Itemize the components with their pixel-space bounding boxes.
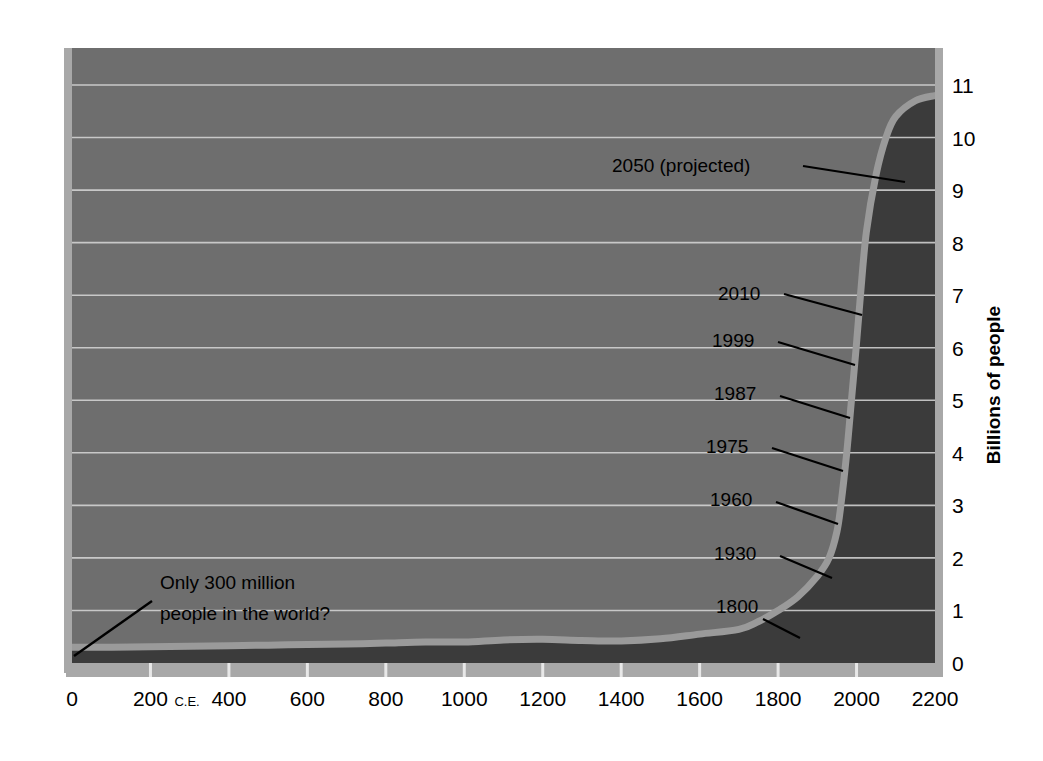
y-tick-label-8: 8	[952, 232, 964, 255]
y-tick-label-7: 7	[952, 284, 964, 307]
x-tick-label-200: 200	[133, 687, 168, 710]
chart-canvas: 01234567891011 0200C.E.40060080010001200…	[0, 0, 1043, 761]
y-axis-left-spine	[64, 48, 72, 673]
x-tick-label-2000: 2000	[833, 687, 880, 710]
x-tick-label-1400: 1400	[598, 687, 645, 710]
y-tick-label-9: 9	[952, 179, 964, 202]
x-axis-band	[66, 663, 943, 677]
callout-line-1: Only 300 million	[160, 572, 295, 593]
y-axis-right-spine	[935, 48, 943, 673]
x-tick-label-1800: 1800	[755, 687, 802, 710]
population-growth-chart: 01234567891011 0200C.E.40060080010001200…	[0, 0, 1043, 761]
y-tick-label-6: 6	[952, 337, 964, 360]
callout-line-2: people in the world?	[160, 603, 330, 624]
y-tick-label-11: 11	[952, 74, 974, 97]
annotation-label-a1987: 1987	[714, 383, 756, 404]
y-tick-label-5: 5	[952, 389, 964, 412]
y-axis-tick-labels: 01234567891011	[952, 74, 975, 675]
x-axis-tick-labels: 0200C.E.40060080010001200140016001800200…	[66, 687, 958, 710]
x-tick-label-1000: 1000	[441, 687, 488, 710]
x-tick-label-600: 600	[290, 687, 325, 710]
y-tick-label-4: 4	[952, 442, 964, 465]
annotation-label-a1975: 1975	[706, 436, 748, 457]
y-axis-title: Billions of people	[983, 306, 1004, 464]
x-tick-label-400: 400	[211, 687, 246, 710]
x-tick-label-1200: 1200	[519, 687, 566, 710]
annotation-label-a1930: 1930	[714, 543, 756, 564]
y-tick-label-10: 10	[952, 127, 975, 150]
x-tick-label-0: 0	[66, 687, 78, 710]
annotation-label-a1960: 1960	[710, 489, 752, 510]
y-tick-label-3: 3	[952, 494, 964, 517]
y-tick-label-0: 0	[952, 652, 964, 675]
annotation-label-a2010: 2010	[718, 283, 760, 304]
y-tick-label-1: 1	[952, 599, 964, 622]
y-tick-label-2: 2	[952, 547, 964, 570]
annotation-label-a1999: 1999	[712, 330, 754, 351]
annotation-label-a1800: 1800	[716, 596, 758, 617]
x-tick-label-2200: 2200	[912, 687, 959, 710]
x-tick-label-1600: 1600	[676, 687, 723, 710]
x-tick-label-800: 800	[368, 687, 403, 710]
annotation-label-a2050: 2050 (projected)	[612, 155, 750, 176]
x-tick-suffix-ce: C.E.	[174, 694, 199, 709]
